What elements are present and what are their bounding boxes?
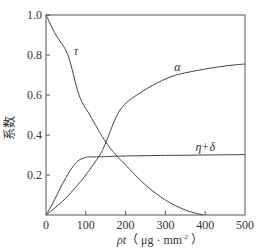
curve-labels: ταη+δ <box>74 44 216 154</box>
y-tick-label: 0.4 <box>27 128 42 142</box>
x-axis-ticks: 0100200300400500 <box>43 211 254 232</box>
x-tick-label: 200 <box>117 218 135 232</box>
x-axis-title: ρt（ μg · mm-2 ） <box>116 233 203 247</box>
curve-label-alpha: α <box>174 60 181 74</box>
x-tick-label: 0 <box>43 218 49 232</box>
y-tick-label: 1.0 <box>27 8 42 22</box>
curve-label-tau: τ <box>74 44 79 58</box>
x-tick-label: 400 <box>196 218 214 232</box>
x-tick-label: 300 <box>156 218 174 232</box>
x-axis-title-close: ） <box>188 233 203 247</box>
chart: 0.20.40.60.81.0 0100200300400500 ταη+δ 系… <box>0 0 263 252</box>
x-tick-label: 500 <box>236 218 254 232</box>
y-axis-ticks: 0.20.40.60.81.0 <box>27 8 50 182</box>
y-tick-label: 0.6 <box>27 88 42 102</box>
y-tick-label: 0.2 <box>27 168 42 182</box>
curve-tau <box>46 15 203 215</box>
x-axis-title-unit: （ μg · mm <box>126 233 183 247</box>
curve-alpha <box>46 64 245 215</box>
y-axis-title: 系数 <box>2 116 17 140</box>
y-tick-label: 0.8 <box>27 48 42 62</box>
x-tick-label: 100 <box>77 218 95 232</box>
curve-label-eta-delta: η+δ <box>195 140 215 154</box>
